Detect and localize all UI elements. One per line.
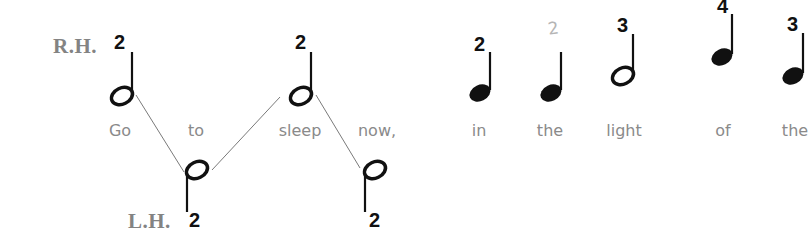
- quarter-note: [709, 14, 736, 69]
- connector-line: [136, 95, 184, 172]
- lyric-word: the: [537, 123, 563, 139]
- lyric-word: of: [715, 123, 730, 139]
- half-note: [610, 34, 637, 88]
- lyric-word: now,: [358, 123, 396, 139]
- quarter-note: [538, 52, 565, 105]
- lyric-word: sleep: [279, 123, 322, 139]
- connector-line: [316, 95, 360, 168]
- fingering-number: 2: [474, 34, 485, 54]
- quarter-note: [780, 33, 807, 88]
- half-note: [362, 158, 389, 212]
- lyric-word: the: [782, 123, 808, 139]
- fingering-number: 2: [295, 32, 306, 52]
- fingering-number: 2: [189, 210, 200, 230]
- lyric-word: light: [606, 123, 641, 139]
- half-note: [288, 52, 315, 108]
- right-hand-label: R.H.: [53, 34, 97, 59]
- half-note: [184, 158, 211, 212]
- connector-line: [212, 97, 280, 170]
- lyric-word: in: [472, 123, 487, 139]
- lyric-word: to: [188, 123, 204, 139]
- fingering-number: 3: [787, 14, 798, 34]
- quarter-note: [467, 52, 494, 105]
- fingering-number: 4: [717, 0, 728, 16]
- pencil-fingering-number: 2: [547, 19, 560, 37]
- fingering-number: 2: [114, 32, 125, 52]
- left-hand-label: L.H.: [128, 209, 171, 234]
- half-note: [109, 52, 136, 108]
- fingering-number: 2: [369, 210, 380, 230]
- fingering-number: 3: [617, 15, 628, 35]
- music-notation: R.H. L.H. 2 2 2 2 2 2 3 4 3 Go to sleep …: [0, 0, 810, 237]
- lyric-word: Go: [109, 123, 131, 139]
